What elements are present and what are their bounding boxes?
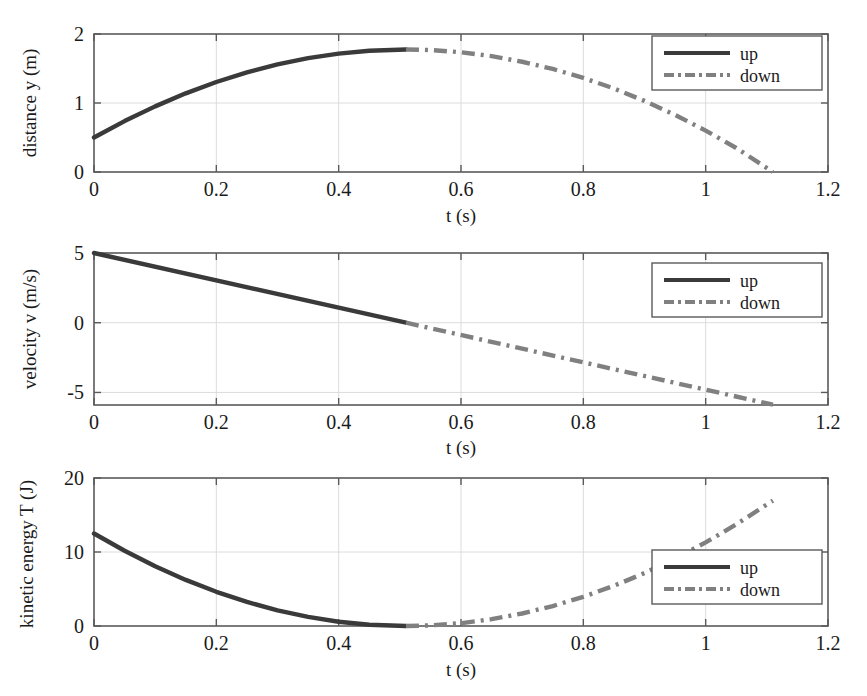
y-tick-label: 0 [74, 615, 84, 637]
x-tick-label: 1 [701, 632, 711, 654]
distance-chart-svg: 00.20.40.60.811.2012 distance y (m) t (s… [0, 0, 867, 232]
kinetic-energy-chart-svg: 00.20.40.60.811.201020 kinetic energy T … [0, 464, 867, 696]
series-line-up [94, 49, 406, 137]
x-tick-label: 0.2 [204, 178, 229, 200]
y-tick-label: 20 [64, 467, 84, 489]
x-tick-label: 1.2 [816, 411, 841, 433]
x-tick-label: 0 [89, 411, 99, 433]
kinetic-energy-x-axis-label: t (s) [446, 659, 476, 681]
series-line-up [94, 534, 406, 627]
y-tick-label: 2 [74, 23, 84, 45]
chart-panel-distance: 00.20.40.60.811.2012 distance y (m) t (s… [0, 0, 867, 232]
velocity-legend[interactable]: updown [652, 263, 822, 317]
chart-panel-velocity: 00.20.40.60.811.2-505 velocity v (m/s) t… [0, 232, 867, 464]
legend-label-down: down [740, 66, 780, 86]
y-tick-label: 0 [74, 312, 84, 334]
x-tick-label: 0.2 [204, 632, 229, 654]
x-tick-label: 1 [701, 411, 711, 433]
y-tick-label: 10 [64, 541, 84, 563]
x-tick-label: 0.2 [204, 411, 229, 433]
x-tick-label: 0 [89, 178, 99, 200]
chart-panel-kinetic-energy: 00.20.40.60.811.201020 kinetic energy T … [0, 464, 867, 696]
velocity-x-axis-label: t (s) [446, 437, 476, 459]
velocity-chart-svg: 00.20.40.60.811.2-505 velocity v (m/s) t… [0, 232, 867, 464]
x-tick-label: 1.2 [816, 632, 841, 654]
x-tick-label: 0.4 [326, 411, 351, 433]
x-tick-label: 1.2 [816, 178, 841, 200]
x-tick-label: 0.8 [571, 178, 596, 200]
x-tick-label: 0.8 [571, 632, 596, 654]
kinetic-energy-y-axis-label: kinetic energy T (J) [16, 480, 38, 628]
velocity-y-axis-label: velocity v (m/s) [19, 269, 41, 389]
x-tick-label: 0.4 [326, 632, 351, 654]
x-tick-label: 0.8 [571, 411, 596, 433]
x-tick-label: 0.6 [449, 632, 474, 654]
legend-box [652, 263, 822, 317]
x-tick-label: 0.6 [449, 411, 474, 433]
y-tick-label: 1 [74, 92, 84, 114]
legend-label-up: up [740, 271, 758, 291]
y-tick-label: 0 [74, 161, 84, 183]
legend-label-up: up [740, 44, 758, 64]
figure-projectile-motion: 00.20.40.60.811.2012 distance y (m) t (s… [0, 0, 867, 696]
distance-x-axis-label: t (s) [446, 205, 476, 227]
legend-label-down: down [740, 293, 780, 313]
distance-y-axis-label: distance y (m) [19, 49, 41, 158]
x-tick-label: 0.4 [326, 178, 351, 200]
x-tick-label: 0 [89, 632, 99, 654]
y-tick-label: 5 [74, 242, 84, 264]
x-tick-label: 0.6 [449, 178, 474, 200]
legend-box [652, 550, 822, 604]
distance-legend[interactable]: updown [652, 36, 822, 90]
x-tick-label: 1 [701, 178, 711, 200]
y-tick-label: -5 [67, 381, 84, 403]
kinetic-energy-legend[interactable]: updown [652, 550, 822, 604]
legend-box [652, 36, 822, 90]
legend-label-up: up [740, 558, 758, 578]
series-line-up [94, 253, 406, 323]
legend-label-down: down [740, 580, 780, 600]
